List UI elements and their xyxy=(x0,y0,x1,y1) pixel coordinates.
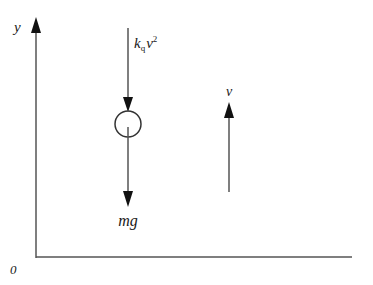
drag-force-label: kqv2 xyxy=(134,34,157,53)
drag-force-arrow xyxy=(123,28,133,112)
velocity-arrowhead-icon xyxy=(224,102,234,118)
y-axis-arrowhead-icon xyxy=(31,17,41,33)
gravity-force-arrow xyxy=(123,127,133,207)
velocity-label: v xyxy=(226,84,233,99)
gravity-arrowhead-icon xyxy=(123,191,133,207)
y-axis-label: y xyxy=(12,19,21,35)
velocity-arrow xyxy=(224,102,234,192)
free-body-diagram: y 0 kqv2 mg v xyxy=(0,0,373,285)
y-axis xyxy=(31,17,41,258)
origin-label: 0 xyxy=(10,262,17,277)
drag-arrowhead-icon xyxy=(123,97,133,112)
gravity-force-label: mg xyxy=(118,212,138,230)
